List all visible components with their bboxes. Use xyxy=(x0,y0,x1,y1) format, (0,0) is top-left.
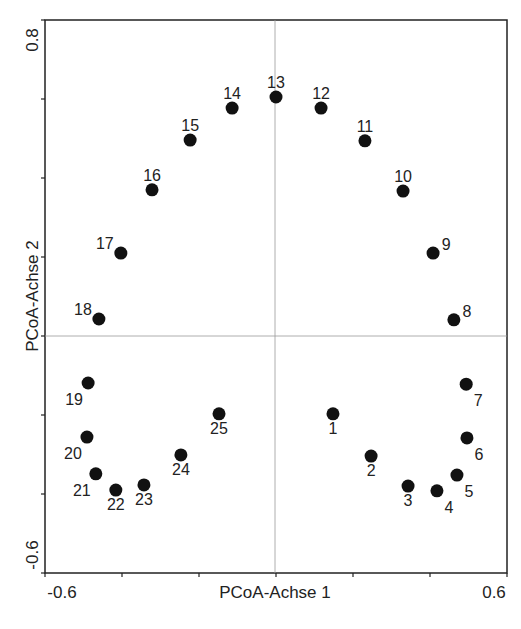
y-tick-label-max: 0.8 xyxy=(23,28,42,52)
point-marker xyxy=(460,378,473,391)
point-marker xyxy=(270,91,283,104)
point-label: 7 xyxy=(474,392,483,409)
point-marker xyxy=(137,478,150,491)
point-marker xyxy=(92,313,105,326)
point-label: 17 xyxy=(96,235,114,252)
point-label: 14 xyxy=(223,85,241,102)
point-marker xyxy=(447,313,460,326)
point-label: 18 xyxy=(74,301,92,318)
point-label: 15 xyxy=(181,117,199,134)
point-marker xyxy=(80,431,93,444)
point-marker xyxy=(146,183,159,196)
point-label: 10 xyxy=(394,168,412,185)
point-marker xyxy=(397,185,410,198)
point-marker xyxy=(326,407,339,420)
y-tick-label-min: -0.6 xyxy=(23,540,42,569)
point-marker xyxy=(109,484,122,497)
point-label: 2 xyxy=(367,462,376,479)
x-axis-label: PCoA-Achse 1 xyxy=(219,583,331,602)
x-tick-label-max: 0.6 xyxy=(482,583,506,602)
point-marker xyxy=(226,102,239,115)
x-tick-label-min: -0.6 xyxy=(47,583,76,602)
point-label: 19 xyxy=(65,391,83,408)
point-marker xyxy=(184,134,197,147)
point-marker xyxy=(365,450,378,463)
point-label: 24 xyxy=(172,461,190,478)
point-label: 11 xyxy=(357,118,374,135)
point-label: 25 xyxy=(210,420,228,437)
point-label: 20 xyxy=(64,445,82,462)
point-label: 22 xyxy=(107,496,125,513)
point-label: 16 xyxy=(143,167,161,184)
point-label: 3 xyxy=(404,492,413,509)
point-marker xyxy=(114,247,127,260)
point-marker xyxy=(213,407,226,420)
point-marker xyxy=(315,102,328,115)
point-label: 13 xyxy=(267,74,285,91)
y-axis-label: PCoA-Achse 2 xyxy=(23,240,42,352)
point-label: 6 xyxy=(475,446,484,463)
point-label: 5 xyxy=(464,483,473,500)
point-marker xyxy=(89,467,102,480)
point-marker xyxy=(430,484,443,497)
data-point: 11 xyxy=(357,118,374,148)
point-marker xyxy=(82,377,95,390)
point-label: 9 xyxy=(442,236,451,253)
point-label: 23 xyxy=(135,491,153,508)
point-marker xyxy=(358,134,371,147)
point-label: 21 xyxy=(73,482,91,499)
point-label: 1 xyxy=(329,420,338,437)
pcoa-scatter-chart: -0.6 0.6 0.8 -0.6 PCoA-Achse 1 PCoA-Achs… xyxy=(0,0,521,629)
point-marker xyxy=(460,431,473,444)
point-marker xyxy=(174,448,187,461)
point-marker xyxy=(427,247,440,260)
point-label: 4 xyxy=(444,499,453,516)
point-label: 8 xyxy=(462,303,471,320)
point-marker xyxy=(450,469,463,482)
point-marker xyxy=(402,480,415,493)
point-label: 12 xyxy=(312,85,330,102)
